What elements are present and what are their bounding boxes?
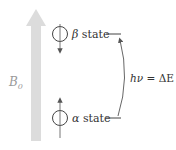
- beta-spin-down-icon: [53, 24, 68, 51]
- magnetic-field-arrow-icon: [26, 9, 46, 141]
- alpha-state-label: α state: [72, 112, 111, 125]
- transition-arrow-icon: [118, 40, 125, 116]
- beta-state-label: β state: [71, 28, 109, 41]
- transition-energy-label: hν = ΔE: [130, 72, 174, 84]
- nmr-spin-state-diagram: B0 β state α state hν = ΔE: [0, 0, 176, 150]
- alpha-spin-up-icon: [53, 100, 68, 138]
- field-label: B0: [8, 75, 23, 91]
